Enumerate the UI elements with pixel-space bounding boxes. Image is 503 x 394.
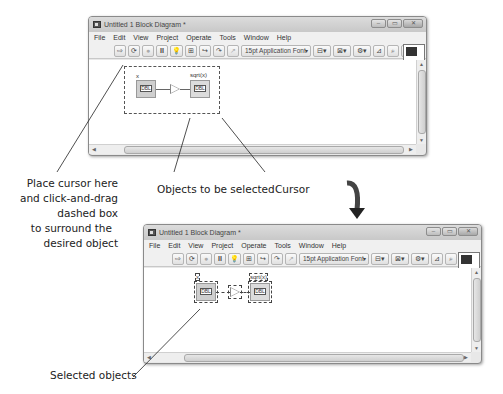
curved-down-arrow-icon (347, 183, 365, 219)
annotation-place-cursor: Place cursor here and click-and-drag das… (10, 176, 118, 251)
annotation-selected-objects: Selected objects (50, 368, 137, 383)
annotation-objects-to-select: Objects to be selected (157, 182, 275, 197)
annotation-cursor: Cursor (275, 182, 310, 197)
